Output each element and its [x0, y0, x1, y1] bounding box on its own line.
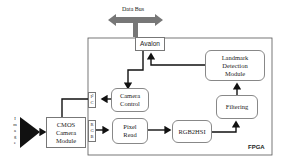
image-label: I m a g e	[12, 116, 18, 146]
system-block-diagram: Data Bus Avalon Landmark Detection Modul…	[0, 0, 284, 166]
rgb-port: R G B	[88, 120, 96, 142]
cmos-camera-block: CMOS Camera Module	[46, 117, 86, 148]
camera-control-block: Camera Control	[111, 88, 149, 112]
filtering-block: Filtering	[216, 95, 258, 119]
port-label: B	[90, 134, 93, 140]
pixel-read-block: Pixel Read	[112, 118, 148, 144]
i2c-port: I² C	[88, 92, 96, 108]
avalon-block: Avalon	[135, 37, 165, 51]
fpga-label: FPGA	[248, 144, 265, 150]
rgb2hsi-block: RGB2HSI	[172, 120, 212, 143]
port-label: C	[90, 100, 93, 106]
landmark-detection-block: Landmark Detection Module	[205, 50, 265, 81]
image-letter: e	[14, 140, 16, 146]
data-bus-label: Data Bus	[122, 6, 144, 12]
